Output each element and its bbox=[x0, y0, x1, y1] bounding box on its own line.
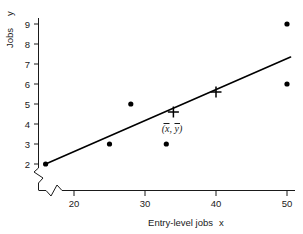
x-tick-label-20: 20 bbox=[69, 198, 80, 209]
y-axis-title-text: Jobs bbox=[4, 28, 15, 48]
y-tick-label-4: 4 bbox=[25, 119, 30, 130]
y-axis-title: Jobs y bbox=[4, 11, 15, 48]
chart-canvas: 9 8 7 6 5 4 3 2 Jobs y bbox=[0, 0, 303, 234]
y-tick-label-7: 7 bbox=[25, 59, 30, 70]
x-tick-labels: 20 30 40 50 bbox=[69, 198, 293, 209]
data-point bbox=[43, 161, 48, 166]
y-tick-label-5: 5 bbox=[25, 99, 30, 110]
y-tick-label-8: 8 bbox=[25, 39, 30, 50]
y-tick-label-3: 3 bbox=[25, 139, 30, 150]
regression-line bbox=[46, 57, 291, 164]
y-tick-labels: 9 8 7 6 5 4 3 2 bbox=[25, 19, 30, 170]
mean-point-annotation-text: (x, y) bbox=[162, 123, 183, 135]
data-points bbox=[43, 21, 290, 166]
y-tick-label-2: 2 bbox=[25, 159, 30, 170]
annot-paren-close: ) bbox=[178, 123, 183, 135]
x-axis-break-icon bbox=[46, 185, 62, 196]
y-tick-label-6: 6 bbox=[25, 79, 30, 90]
x-tick-label-50: 50 bbox=[282, 198, 293, 209]
mean-point-cross bbox=[168, 107, 179, 118]
y-tick-label-9: 9 bbox=[25, 19, 30, 30]
data-point bbox=[107, 141, 112, 146]
y-axis-title-var: y bbox=[4, 11, 15, 16]
x-tick-label-40: 40 bbox=[211, 198, 222, 209]
x-axis-title-var: x bbox=[219, 217, 224, 228]
x-axis-title: Entry-level jobs x bbox=[148, 217, 224, 228]
data-point bbox=[128, 101, 133, 106]
data-point bbox=[164, 141, 169, 146]
x-tick-label-30: 30 bbox=[140, 198, 151, 209]
mean-point-annotation: (x, y) bbox=[162, 123, 183, 135]
x-axis bbox=[39, 185, 296, 196]
x-axis-title-text: Entry-level jobs bbox=[148, 217, 213, 228]
scatter-plot-figure: 9 8 7 6 5 4 3 2 Jobs y bbox=[0, 0, 303, 234]
y-axis-break-icon bbox=[34, 168, 43, 190]
y-tick-marks bbox=[34, 24, 39, 164]
data-point bbox=[284, 21, 289, 26]
data-point bbox=[284, 81, 289, 86]
x-tick-marks bbox=[74, 191, 287, 197]
